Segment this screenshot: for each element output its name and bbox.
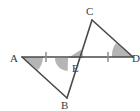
geometry-figure: A B C D E — [0, 0, 140, 111]
vertex-label-a: A — [10, 52, 18, 64]
geometry-diagram: A B C D E — [0, 0, 140, 111]
vertex-label-e: E — [72, 62, 79, 74]
vertex-label-b: B — [61, 99, 68, 111]
vertex-label-c: C — [86, 5, 93, 17]
vertex-label-d: D — [132, 52, 140, 64]
